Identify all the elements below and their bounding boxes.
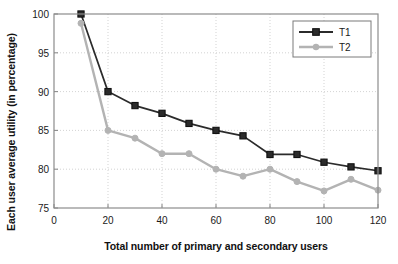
x-tick-label: 120 xyxy=(370,215,387,226)
chart-figure: Each user average utility (in percentage… xyxy=(0,0,398,264)
y-tick-label: 95 xyxy=(18,47,49,58)
plot-area: T1T2 xyxy=(0,0,398,264)
y-tick-label: 80 xyxy=(18,164,49,175)
legend[interactable]: T1T2 xyxy=(293,21,371,57)
x-tick-label: 100 xyxy=(316,215,333,226)
x-tick-label: 20 xyxy=(102,215,113,226)
y-tick-label: 75 xyxy=(18,203,49,214)
x-tick-label: 80 xyxy=(264,215,275,226)
x-tick-label: 60 xyxy=(210,215,221,226)
y-tick-label: 85 xyxy=(18,125,49,136)
x-tick-label: 0 xyxy=(51,215,57,226)
legend-label-t2: T2 xyxy=(339,42,351,53)
legend-label-t1: T1 xyxy=(339,27,351,38)
y-tick-label: 90 xyxy=(18,86,49,97)
y-tick-label: 100 xyxy=(18,9,49,20)
x-tick-label: 40 xyxy=(156,215,167,226)
x-axis-label: Total number of primary and secondary us… xyxy=(54,240,378,252)
